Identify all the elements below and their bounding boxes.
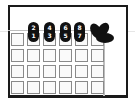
grid-cell[interactable]	[43, 81, 56, 94]
grid-cell[interactable]	[75, 65, 88, 78]
pill-bottom-number: 3	[44, 32, 55, 40]
pill-top-number: 6	[60, 24, 71, 32]
pill-bottom-number: 5	[60, 32, 71, 40]
grid-cell[interactable]	[11, 65, 24, 78]
pill-top-number: 2	[28, 24, 39, 32]
grid-cell[interactable]	[11, 49, 24, 62]
grid-cell[interactable]	[75, 81, 88, 94]
grid-cell[interactable]	[91, 49, 104, 62]
grid-cell[interactable]	[75, 49, 88, 62]
grid-cell[interactable]	[91, 65, 104, 78]
number-pill[interactable]: 8 7	[74, 22, 85, 42]
grid-cell[interactable]	[43, 49, 56, 62]
grid-cell[interactable]	[43, 65, 56, 78]
number-pill[interactable]: 4 3	[44, 22, 55, 42]
pill-top-number: 8	[74, 24, 85, 32]
number-pill[interactable]: 2 1	[28, 22, 39, 42]
pill-bottom-number: 7	[74, 32, 85, 40]
grid-cell[interactable]	[59, 81, 72, 94]
grid-cell[interactable]	[11, 81, 24, 94]
number-pill[interactable]: 6 5	[60, 22, 71, 42]
grid-cell[interactable]	[27, 65, 40, 78]
grid-cell[interactable]	[59, 65, 72, 78]
grid-cell[interactable]	[91, 81, 104, 94]
grid-cell[interactable]	[27, 81, 40, 94]
grid-cell[interactable]	[11, 33, 24, 46]
leaf-fan-icon	[89, 22, 115, 44]
grid-cell[interactable]	[59, 49, 72, 62]
pill-bottom-number: 1	[28, 32, 39, 40]
grid-cell[interactable]	[27, 49, 40, 62]
pill-top-number: 4	[44, 24, 55, 32]
